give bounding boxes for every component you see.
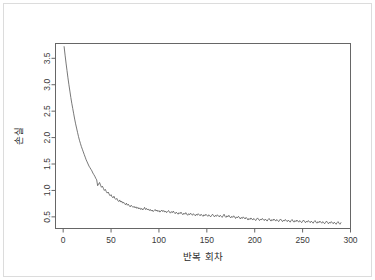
- y-tick-label: 2.5: [42, 105, 52, 117]
- x-tick-label: 50: [106, 235, 116, 245]
- loss-curve-plot: 050100150200250300 0.51.01.52.02.53.03.5…: [0, 0, 375, 280]
- chart-figure: 050100150200250300 0.51.01.52.02.53.03.5…: [0, 0, 375, 280]
- y-tick-label: 1.0: [42, 184, 52, 196]
- x-axis-title: 반복 회차: [183, 251, 222, 262]
- y-tick-label: 1.5: [42, 158, 52, 170]
- x-tick-label: 250: [296, 235, 310, 245]
- plot-box: [56, 44, 351, 229]
- x-axis-ticks: [63, 229, 350, 233]
- x-tick-label: 100: [152, 235, 166, 245]
- x-tick-label: 300: [343, 235, 357, 245]
- y-tick-label: 3.5: [42, 52, 52, 64]
- y-tick-label: 2.0: [42, 131, 52, 143]
- x-tick-label: 200: [248, 235, 262, 245]
- x-axis-tick-labels: 050100150200250300: [61, 235, 358, 245]
- x-tick-label: 150: [200, 235, 214, 245]
- y-tick-label: 3.0: [42, 79, 52, 91]
- y-axis-tick-labels: 0.51.01.52.02.53.03.5: [42, 52, 52, 223]
- y-tick-label: 0.5: [42, 211, 52, 223]
- y-axis-ticks: [52, 58, 56, 217]
- loss-series-line: [64, 47, 341, 225]
- x-tick-label: 0: [61, 235, 66, 245]
- plot-box-group: [56, 44, 351, 229]
- y-axis-title: 손실: [13, 127, 24, 145]
